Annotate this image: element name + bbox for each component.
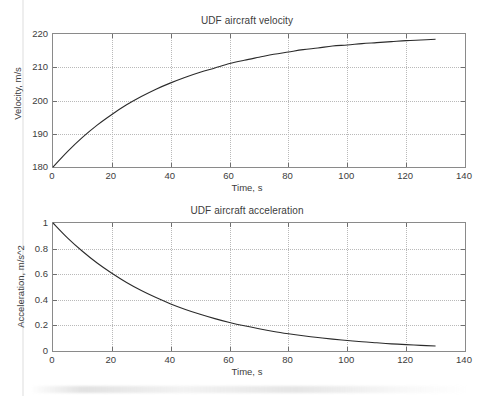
- x-tick-label: 80: [282, 170, 293, 181]
- y-tick-label: 1: [43, 217, 48, 228]
- x-tick-label: 60: [223, 354, 234, 365]
- y-tick-label: 200: [32, 94, 48, 105]
- x-tick-label: 120: [397, 170, 413, 181]
- x-tick-label: 100: [338, 354, 354, 365]
- x-tick-label: 0: [49, 354, 54, 365]
- data-curve-velocity: [53, 34, 465, 167]
- plot-area-velocity: [52, 33, 466, 168]
- x-tick-label: 120: [397, 354, 413, 365]
- y-tick-label: 210: [32, 61, 48, 72]
- x-tick-label: 40: [164, 354, 175, 365]
- x-tick-label: 140: [456, 170, 472, 181]
- y-tick-label: 0.4: [35, 293, 48, 304]
- y-tick-label: 0.8: [35, 242, 48, 253]
- plot-area-acceleration: [52, 222, 466, 352]
- chart-panel-velocity: UDF aircraft velocity 180190200210220 02…: [0, 0, 494, 198]
- chart-panel-acceleration: UDF aircraft acceleration 00.20.40.60.81…: [0, 196, 494, 396]
- x-tick-label: 0: [49, 170, 54, 181]
- x-axis-title-velocity: Time, s: [0, 182, 494, 193]
- y-tick-label: 190: [32, 127, 48, 138]
- x-tick-label: 140: [456, 354, 472, 365]
- y-tick-label: 0.6: [35, 268, 48, 279]
- figure-canvas: UDF aircraft velocity 180190200210220 02…: [0, 0, 494, 396]
- chart-title-velocity: UDF aircraft velocity: [0, 15, 494, 26]
- y-axis-title-velocity: Velocity, m/s: [12, 39, 23, 149]
- x-tick-label: 100: [338, 170, 354, 181]
- y-axis-title-acceleration: Acceleration, m/s^2: [15, 222, 26, 352]
- x-tick-label: 80: [282, 354, 293, 365]
- x-tick-label: 20: [106, 354, 117, 365]
- x-axis-title-acceleration: Time, s: [0, 366, 494, 377]
- x-tick-label: 60: [223, 170, 234, 181]
- scan-artifact-bottom: [30, 386, 470, 393]
- x-tick-label: 40: [164, 170, 175, 181]
- x-tick-label: 20: [106, 170, 117, 181]
- y-tick-label: 0.2: [35, 319, 48, 330]
- y-tick-label: 220: [32, 28, 48, 39]
- data-curve-acceleration: [53, 223, 465, 351]
- chart-title-acceleration: UDF aircraft acceleration: [0, 205, 494, 216]
